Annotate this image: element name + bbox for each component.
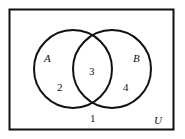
set-b-label: B bbox=[133, 52, 140, 64]
region-a-only: 2 bbox=[57, 81, 63, 93]
region-a-and-b: 3 bbox=[89, 65, 95, 77]
region-outside: 1 bbox=[90, 112, 96, 124]
universe-label: U bbox=[154, 114, 163, 126]
region-b-only: 4 bbox=[123, 81, 129, 93]
set-a-label: A bbox=[43, 52, 51, 64]
venn-diagram: A B 2 3 4 1 U bbox=[0, 0, 185, 139]
